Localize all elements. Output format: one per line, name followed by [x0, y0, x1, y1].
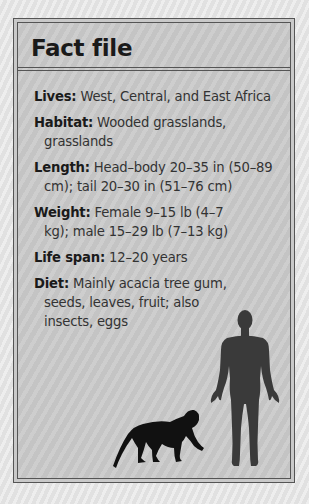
fact-label: Weight: [34, 205, 91, 220]
fact-label: Length: [34, 160, 90, 175]
monkey-silhouette-icon [108, 406, 206, 470]
fact-label: Life span: [34, 250, 105, 265]
fact-length: Length: Head–body 20–35 in (50–89 cm); t… [34, 158, 276, 196]
fact-label: Habitat: [34, 115, 93, 130]
title-divider [18, 67, 290, 71]
fact-value: Mainly acacia tree gum, seeds, leaves, f… [44, 276, 227, 329]
fact-label: Diet: [34, 276, 69, 291]
fact-list: Lives: West, Central, and East Africa Ha… [34, 87, 284, 338]
fact-lifespan: Life span: 12–20 years [34, 248, 284, 267]
human-silhouette-icon [210, 308, 282, 470]
fact-value: West, Central, and East Africa [80, 89, 270, 104]
fact-habitat: Habitat: Wooded grasslands, grasslands [34, 113, 284, 151]
fact-lives: Lives: West, Central, and East Africa [34, 87, 284, 106]
fact-weight: Weight: Female 9–15 lb (4–7 kg); male 15… [34, 203, 234, 241]
fact-value: 12–20 years [109, 250, 187, 265]
fact-diet: Diet: Mainly acacia tree gum, seeds, lea… [34, 274, 229, 331]
fact-label: Lives: [34, 89, 76, 104]
fact-file-title: Fact file [31, 35, 132, 61]
